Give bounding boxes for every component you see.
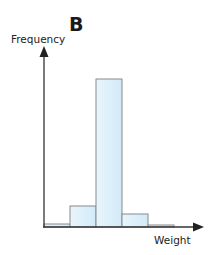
x-axis-arrow-icon bbox=[193, 223, 204, 232]
bar-4 bbox=[122, 214, 148, 227]
bar-3 bbox=[96, 79, 122, 227]
bars bbox=[44, 79, 174, 227]
y-axis-arrow-icon bbox=[40, 46, 49, 57]
bar-2 bbox=[70, 206, 96, 227]
histogram bbox=[0, 0, 213, 255]
